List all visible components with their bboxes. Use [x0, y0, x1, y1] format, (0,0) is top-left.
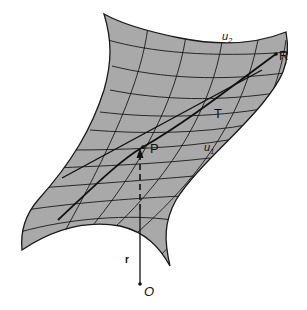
- label-u2: u2: [222, 30, 232, 44]
- point-r: [274, 52, 278, 56]
- surface-diagram: u2 u1 R T P O r: [0, 0, 307, 310]
- label-r-point: R: [279, 48, 288, 63]
- point-p: [141, 145, 145, 149]
- label-vector-r: r: [125, 254, 129, 265]
- label-o: O: [144, 284, 154, 299]
- label-p: P: [150, 141, 159, 156]
- label-t: T: [214, 106, 222, 121]
